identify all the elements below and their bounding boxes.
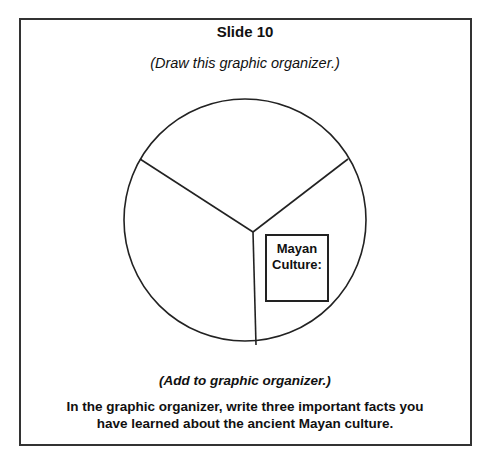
organizer-circle bbox=[124, 99, 366, 341]
graphic-organizer-circle bbox=[0, 0, 490, 467]
instruction-text: In the graphic organizer, write three im… bbox=[0, 398, 490, 432]
divider-left bbox=[140, 159, 253, 232]
instruction-line-1: In the graphic organizer, write three im… bbox=[0, 398, 490, 415]
mayan-culture-label-box: Mayan Culture: bbox=[265, 234, 329, 302]
divider-right bbox=[253, 159, 348, 232]
instruction-line-2: have learned about the ancient Mayan cul… bbox=[0, 415, 490, 432]
label-line-2: Culture: bbox=[267, 257, 327, 273]
instruction-heading: (Add to graphic organizer.) bbox=[0, 373, 490, 388]
divider-bottom bbox=[253, 232, 256, 345]
label-line-1: Mayan bbox=[267, 241, 327, 257]
